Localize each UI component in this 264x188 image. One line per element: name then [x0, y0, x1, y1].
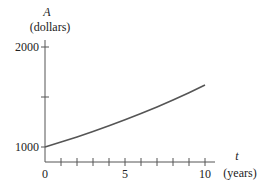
x-tick-label-10: 10 [199, 167, 211, 181]
x-axis-variable: t [235, 149, 239, 163]
y-tick-label-2000: 2000 [15, 40, 39, 54]
data-curve [45, 85, 205, 147]
x-tick-label-0: 0 [42, 167, 48, 181]
y-axis-variable: A [42, 5, 51, 19]
y-axis-unit: (dollars) [30, 20, 71, 34]
y-tick-label-1000: 1000 [15, 140, 39, 154]
x-tick-label-5: 5 [122, 167, 128, 181]
x-axis-unit: (years) [223, 166, 256, 180]
chart: A (dollars) 2000 1000 0 5 10 t (years) [0, 0, 264, 188]
